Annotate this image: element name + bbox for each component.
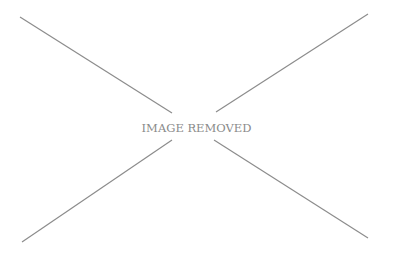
placeholder-label: IMAGE REMOVED [0,121,393,135]
image-removed-placeholder: IMAGE REMOVED [0,0,393,263]
